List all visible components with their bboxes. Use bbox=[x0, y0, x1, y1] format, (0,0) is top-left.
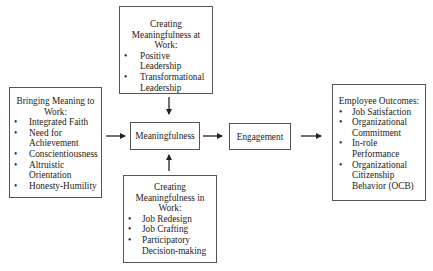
item-text: Job Redesign bbox=[142, 214, 192, 224]
list-item: •Positive Leadership bbox=[120, 51, 212, 72]
item-text: Need for bbox=[29, 128, 62, 138]
node-creating-meaningfulness-in-work: Creating Meaningfulness in Work: •Job Re… bbox=[123, 175, 217, 263]
title-line: Bringing Meaning to bbox=[10, 96, 101, 107]
bullet-list: •Job Satisfaction •OrganizationalCommitm… bbox=[333, 107, 425, 192]
node-label: Meaningfulness bbox=[135, 131, 194, 141]
title-line: Creating bbox=[120, 19, 212, 30]
item-text: Honesty-Humility bbox=[29, 181, 97, 191]
node-title: Employee Outcomes: bbox=[333, 96, 425, 107]
list-item: •Conscientiousness bbox=[10, 149, 101, 160]
item-text: Behavior (OCB) bbox=[352, 181, 414, 191]
title-line: Work: bbox=[10, 107, 101, 118]
list-item: •Job Redesign bbox=[124, 214, 216, 225]
item-text: Job Crafting bbox=[142, 224, 188, 234]
list-item: •In-rolePerformance bbox=[333, 138, 425, 159]
node-label: Engagement bbox=[237, 132, 283, 142]
list-item: •AltruisticOrientation bbox=[10, 160, 101, 181]
item-text: Leadership bbox=[140, 83, 181, 93]
list-item: •Job Satisfaction bbox=[333, 107, 425, 118]
title-line: Employee Outcomes: bbox=[333, 96, 425, 107]
item-text: Commitment bbox=[352, 128, 401, 138]
node-title: Bringing Meaning to Work: bbox=[10, 96, 101, 117]
list-item: •OrganizationalCommitment bbox=[333, 117, 425, 138]
item-text: Organizational bbox=[352, 117, 407, 127]
item-text: Orientation bbox=[29, 170, 71, 180]
list-item: •Honesty-Humility bbox=[10, 181, 101, 192]
bullet-list: •Integrated Faith •Need forAchievement •… bbox=[10, 117, 101, 191]
list-item: •TransformationalLeadership bbox=[120, 72, 212, 93]
item-text: Altruistic bbox=[29, 160, 64, 170]
bullet-list: •Job Redesign •Job Crafting •Participato… bbox=[124, 214, 216, 256]
item-text: Organizational bbox=[352, 160, 407, 170]
item-text: Citizenship bbox=[352, 170, 394, 180]
item-text: Participatory bbox=[142, 235, 190, 245]
title-line: Work: bbox=[120, 40, 212, 51]
item-text: Decision-making bbox=[142, 246, 206, 256]
item-text: Transformational bbox=[140, 72, 204, 82]
title-line: Meaningfulness at bbox=[120, 30, 212, 41]
node-creating-meaningfulness-at-work: Creating Meaningfulness at Work: •Positi… bbox=[119, 6, 213, 94]
node-title: Creating Meaningfulness at Work: bbox=[120, 19, 212, 51]
list-item: •ParticipatoryDecision-making bbox=[124, 235, 216, 256]
item-text: Performance bbox=[352, 149, 400, 159]
bullet-list: •Positive Leadership •TransformationalLe… bbox=[120, 51, 212, 93]
list-item: •Integrated Faith bbox=[10, 117, 101, 128]
node-title: Creating Meaningfulness in Work: bbox=[124, 182, 216, 214]
title-line: Meaningfulness in bbox=[124, 193, 216, 204]
node-engagement: Engagement bbox=[229, 123, 291, 150]
item-text: Integrated Faith bbox=[29, 117, 88, 127]
item-text: In-role bbox=[352, 138, 377, 148]
list-item: •OrganizationalCitizenshipBehavior (OCB) bbox=[333, 160, 425, 192]
node-bringing-meaning-to-work: Bringing Meaning to Work: •Integrated Fa… bbox=[9, 87, 102, 198]
item-text: Job Satisfaction bbox=[352, 107, 411, 117]
title-line: Work: bbox=[124, 203, 216, 214]
node-meaningfulness: Meaningfulness bbox=[130, 122, 200, 150]
node-employee-outcomes: Employee Outcomes: •Job Satisfaction •Or… bbox=[332, 84, 426, 201]
item-text: Positive Leadership bbox=[140, 51, 181, 72]
item-text: Conscientiousness bbox=[29, 149, 98, 159]
title-line: Creating bbox=[124, 182, 216, 193]
list-item: •Job Crafting bbox=[124, 224, 216, 235]
item-text: Achievement bbox=[29, 138, 79, 148]
list-item: •Need forAchievement bbox=[10, 128, 101, 149]
